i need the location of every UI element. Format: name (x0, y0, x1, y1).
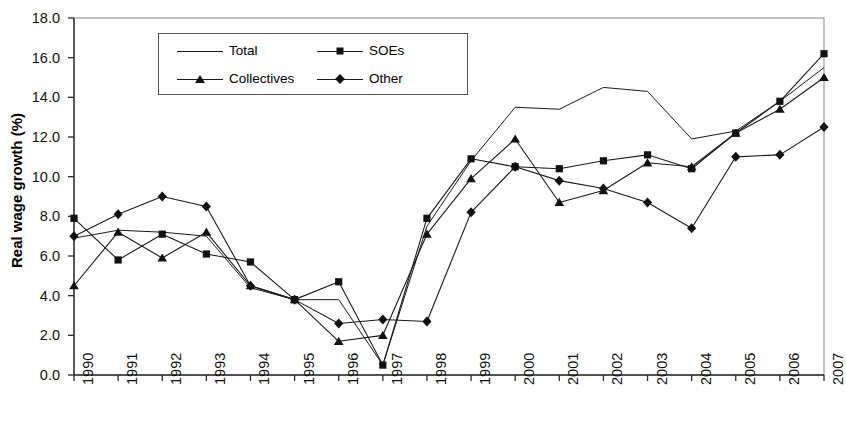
data-point-triangle (202, 228, 212, 236)
legend-key-marker-square-icon (337, 47, 344, 54)
x-axis-tick-label: 2000 (521, 353, 537, 385)
x-axis-tick-label: 1994 (256, 353, 272, 385)
legend-item-other[interactable]: Other (317, 71, 403, 86)
data-point-diamond (687, 223, 696, 233)
data-point-square (423, 215, 430, 222)
legend-item-soes[interactable]: SOEs (317, 43, 404, 58)
legend-key-triangle-icon (177, 72, 223, 86)
legend-item-label: Total (229, 43, 258, 58)
y-axis-tick-label: 14.0 (16, 89, 60, 105)
data-point-triangle (113, 228, 123, 236)
data-point-diamond (819, 122, 828, 132)
y-axis-tick-label: 16.0 (16, 50, 60, 66)
data-point-square (600, 157, 607, 164)
data-point-diamond (114, 209, 123, 219)
data-point-triangle (819, 73, 829, 81)
data-point-square (820, 50, 827, 57)
series-line (74, 127, 824, 323)
data-point-square (203, 250, 210, 257)
x-axis-tick-label: 1995 (301, 353, 317, 385)
data-point-square (70, 215, 77, 222)
legend-key-marker-diamond-icon (335, 74, 345, 84)
y-axis-tick-label: 18.0 (16, 10, 60, 26)
legend-key-line (177, 51, 223, 52)
series-total (74, 68, 824, 366)
x-axis-tick-label: 1996 (345, 353, 361, 385)
data-point-square (379, 361, 386, 368)
x-axis-tick-label: 2004 (698, 353, 714, 385)
data-point-square (247, 258, 254, 265)
data-point-diamond (334, 318, 343, 328)
data-point-diamond (775, 150, 784, 160)
data-point-triangle (378, 331, 388, 339)
y-axis-tick-label: 6.0 (16, 248, 60, 264)
data-point-diamond (555, 176, 564, 186)
legend-key-marker-triangle-icon (195, 75, 205, 83)
data-point-triangle (775, 105, 785, 113)
data-point-square (115, 256, 122, 263)
data-point-diamond (731, 152, 740, 162)
series-soes (70, 50, 827, 369)
data-point-square (159, 231, 166, 238)
series-line (74, 68, 824, 366)
legend-key-none-icon (177, 44, 223, 58)
series-other (69, 122, 828, 328)
series-collectives (69, 73, 829, 345)
data-point-triangle (643, 158, 653, 166)
data-point-diamond (378, 314, 387, 324)
x-axis-tick-label: 1990 (80, 353, 96, 385)
data-point-square (467, 155, 474, 162)
chart-legend: TotalSOEsCollectivesOther (158, 33, 468, 95)
legend-item-label: Collectives (229, 71, 294, 86)
y-axis-tick-label: 10.0 (16, 169, 60, 185)
data-point-diamond (69, 231, 78, 241)
x-axis-tick-label: 2001 (565, 353, 581, 385)
x-axis-tick-label: 2006 (786, 353, 802, 385)
x-axis-tick-label: 1991 (124, 353, 140, 385)
data-point-triangle (510, 134, 520, 142)
data-point-diamond (202, 201, 211, 211)
data-point-square (644, 151, 651, 158)
x-axis-tick-label: 1993 (212, 353, 228, 385)
data-point-triangle (157, 253, 167, 261)
data-point-square (556, 165, 563, 172)
legend-item-collectives[interactable]: Collectives (177, 71, 294, 86)
legend-key-diamond-icon (317, 72, 363, 86)
legend-item-label: SOEs (369, 43, 404, 58)
series-line (74, 78, 824, 342)
x-axis-tick-label: 2005 (742, 353, 758, 385)
y-axis-tick-label: 8.0 (16, 208, 60, 224)
x-axis-tick-label: 1998 (433, 353, 449, 385)
data-point-diamond (422, 316, 431, 326)
data-point-square (335, 278, 342, 285)
legend-key-square-icon (317, 44, 363, 58)
data-point-diamond (643, 197, 652, 207)
y-axis-tick-label: 12.0 (16, 129, 60, 145)
x-axis-tick-label: 2002 (609, 353, 625, 385)
y-axis-tick-label: 4.0 (16, 288, 60, 304)
y-axis-tick-label: 2.0 (16, 327, 60, 343)
data-point-diamond (158, 192, 167, 202)
series-line (74, 54, 824, 365)
x-axis-tick-label: 1997 (389, 353, 405, 385)
x-axis-tick-label: 1992 (168, 353, 184, 385)
legend-item-total[interactable]: Total (177, 43, 258, 58)
x-axis-tick-label: 2003 (654, 353, 670, 385)
x-axis-tick-label: 2007 (830, 353, 846, 385)
x-axis-tick-label: 1999 (477, 353, 493, 385)
data-point-square (776, 98, 783, 105)
legend-item-label: Other (369, 71, 403, 86)
y-axis-tick-label: 0.0 (16, 367, 60, 383)
